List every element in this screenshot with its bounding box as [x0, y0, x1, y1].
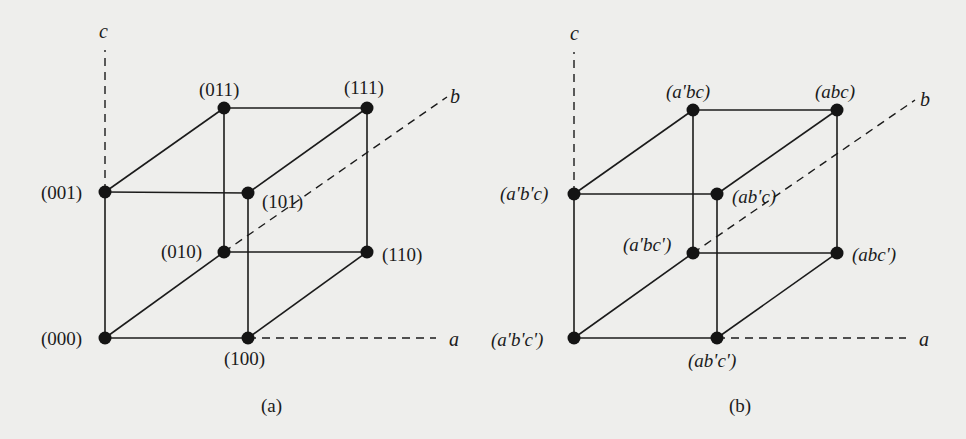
vertex-label-110: (110)	[382, 244, 422, 266]
b-axis	[693, 100, 915, 253]
vertex-abc'	[831, 247, 844, 260]
vertex-000	[99, 332, 112, 345]
vertex-label-100: (100)	[224, 348, 265, 370]
vertex-a'bc'	[687, 247, 700, 260]
vertex-label-abc': (abc')	[852, 244, 896, 266]
b-axis-label: b	[450, 85, 460, 107]
b-axis	[224, 97, 447, 252]
cube-edges	[574, 110, 837, 338]
vertex-label-a'bc: (a'bc)	[666, 81, 710, 103]
vertex-ab'c'	[711, 332, 724, 345]
vertex-a'bc	[687, 104, 700, 117]
vertex-label-000: (000)	[41, 328, 82, 350]
vertex-label-001: (001)	[41, 182, 82, 204]
c-axis-label: c	[570, 22, 579, 44]
vertex-011	[218, 102, 231, 115]
vertex-010	[218, 246, 231, 259]
vertex-label-010: (010)	[161, 241, 202, 263]
b-axis-label: b	[920, 88, 930, 110]
vertex-label-abc: (abc)	[815, 81, 855, 103]
cube-edges	[105, 108, 367, 338]
panel-caption-a: (a)	[261, 395, 282, 417]
vertex-label-011: (011)	[199, 79, 239, 101]
vertex-label-ab'c': (ab'c')	[688, 350, 736, 372]
vertex-label-a'bc': (a'bc')	[623, 234, 671, 256]
a-axis-label: a	[919, 328, 929, 350]
vertex-abc	[831, 104, 844, 117]
vertex-label-101: (101)	[262, 191, 303, 213]
cube-panel-b: c b a (a'b'c') (ab'c') (a'bc	[491, 22, 930, 417]
vertex-label-111: (111)	[344, 77, 384, 99]
boolean-cube-figure: c b a (000)	[0, 0, 966, 439]
vertex-label-ab'c: (ab'c)	[732, 186, 776, 208]
vertex-110	[361, 246, 374, 259]
vertex-100	[242, 332, 255, 345]
vertex-label-a'b'c': (a'b'c')	[491, 329, 543, 351]
vertex-101	[242, 187, 255, 200]
vertex-001	[99, 186, 112, 199]
c-axis-label: c	[99, 20, 108, 42]
vertex-a'b'c'	[568, 332, 581, 345]
a-axis-label: a	[449, 328, 459, 350]
panel-caption-b: (b)	[729, 395, 751, 417]
vertex-ab'c	[711, 188, 724, 201]
cube-panel-a: c b a (000)	[41, 20, 460, 417]
vertex-a'b'c	[568, 188, 581, 201]
vertex-label-a'b'c: (a'b'c)	[500, 183, 548, 205]
vertex-111	[361, 102, 374, 115]
